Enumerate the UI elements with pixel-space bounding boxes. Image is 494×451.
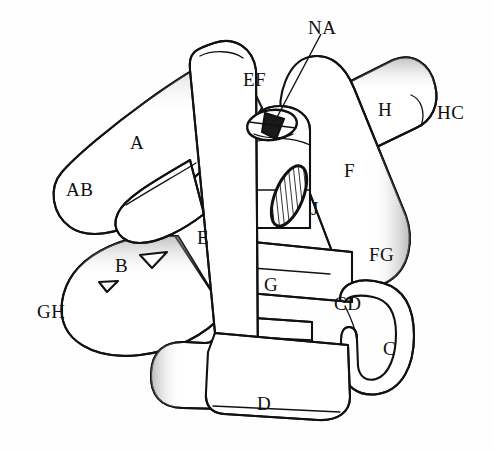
- label-A: A: [130, 133, 144, 152]
- strand-d-outer: [206, 333, 350, 420]
- label-F: F: [344, 161, 355, 180]
- label-B: B: [115, 256, 128, 275]
- label-CD: CD: [334, 294, 361, 313]
- label-HC: HC: [437, 103, 464, 122]
- label-D: D: [257, 394, 271, 413]
- label-E: E: [197, 228, 209, 247]
- label-H: H: [378, 100, 392, 119]
- knot-diagram-svg: [0, 0, 494, 451]
- label-AB: AB: [66, 180, 93, 199]
- label-C: C: [383, 339, 396, 358]
- label-GH: GH: [37, 302, 65, 321]
- label-NA: NA: [308, 18, 336, 37]
- label-FG: FG: [369, 245, 394, 264]
- label-G: G: [264, 275, 278, 294]
- label-EF: EF: [243, 70, 266, 89]
- knot-diagram-figure: NA EF H HC A F AB J E FG B G CD GH C D: [0, 0, 494, 451]
- label-J: J: [311, 199, 319, 218]
